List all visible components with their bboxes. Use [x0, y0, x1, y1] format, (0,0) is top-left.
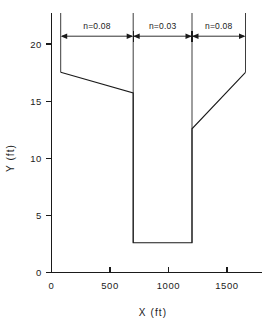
x-tick-group: 0 500 1000 1500 — [49, 267, 239, 291]
roughness-label-left: n=0.08 — [83, 21, 111, 31]
arrow-right-end-icon — [239, 33, 246, 39]
y-tick-label-5: 5 — [36, 210, 42, 221]
roughness-label-group: n=0.08 n=0.03 n=0.08 — [83, 21, 232, 31]
y-tick-label-15: 15 — [30, 96, 42, 107]
arrow-middle-start-icon — [133, 33, 140, 39]
chart-canvas: 0 5 10 15 20 0 500 1000 1500 X (ft) Y (f… — [0, 0, 267, 325]
x-tick-label-1500: 1500 — [215, 280, 239, 291]
dimension-group — [61, 31, 246, 43]
arrow-right-start-icon — [192, 33, 199, 39]
y-tick-label-20: 20 — [30, 39, 42, 50]
roughness-label-middle: n=0.03 — [149, 21, 177, 31]
arrow-left-start-icon — [61, 33, 67, 39]
cross-section-figure: 0 5 10 15 20 0 500 1000 1500 X (ft) Y (f… — [0, 0, 267, 325]
station-guide-lines — [61, 13, 246, 243]
y-tick-group: 0 5 10 15 20 — [30, 39, 51, 279]
axis-group — [52, 13, 263, 273]
arrow-left-end-icon — [127, 33, 134, 39]
roughness-label-right: n=0.08 — [205, 21, 233, 31]
x-tick-label-1000: 1000 — [157, 280, 181, 291]
y-tick-label-10: 10 — [30, 153, 42, 164]
y-axis-title: Y (ft) — [5, 144, 16, 172]
x-tick-label-0: 0 — [49, 280, 55, 291]
y-tick-label-0: 0 — [36, 267, 42, 278]
arrow-middle-end-icon — [186, 33, 193, 39]
x-tick-label-500: 500 — [101, 280, 119, 291]
cross-section-profile — [61, 72, 246, 243]
x-axis-title: X (ft) — [139, 307, 167, 318]
